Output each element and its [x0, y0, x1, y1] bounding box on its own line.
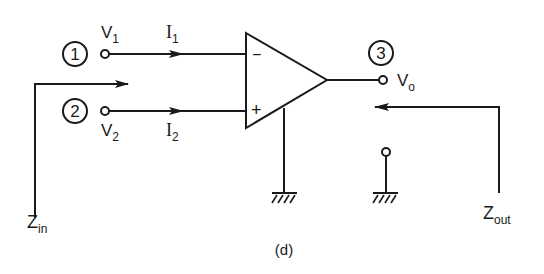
zin-arrow — [35, 84, 128, 218]
i2-label: I2 — [166, 120, 179, 144]
figure-caption: (d) — [275, 241, 293, 258]
node-2-label: 2 — [70, 102, 79, 121]
zin-label: Zin — [27, 212, 47, 236]
ground-terminal[interactable] — [382, 148, 390, 156]
vo-label: Vo — [397, 71, 415, 94]
ground-symbol-2 — [373, 195, 396, 203]
terminal-1[interactable] — [101, 50, 109, 58]
i1-label: I1 — [166, 22, 179, 46]
zout-label: Zout — [483, 203, 511, 227]
zout-arrow — [375, 107, 499, 193]
noninverting-sign: + — [251, 100, 262, 120]
node-3-label: 3 — [376, 44, 385, 63]
v2-label: V2 — [101, 121, 119, 144]
ground-symbol-1 — [272, 195, 295, 203]
opamp-diagram: − + 1 2 3 V1 I1 V2 I2 Vo Zin Zout (d) — [0, 0, 544, 274]
terminal-3[interactable] — [379, 76, 387, 84]
terminal-2[interactable] — [101, 107, 109, 115]
node-1-label: 1 — [70, 45, 79, 64]
inverting-sign: − — [252, 46, 261, 63]
v1-label: V1 — [101, 23, 119, 46]
